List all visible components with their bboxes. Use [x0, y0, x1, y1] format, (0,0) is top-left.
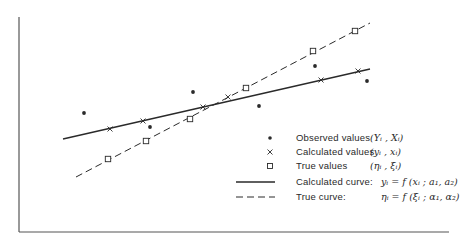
true-point [310, 48, 315, 53]
chart-canvas [0, 0, 466, 244]
observed-point [257, 104, 261, 108]
observed-point [148, 125, 152, 129]
true-point [243, 85, 248, 90]
observed-point [365, 79, 369, 83]
plot-area [63, 23, 370, 177]
true-point [105, 156, 110, 161]
legend-glyphs [236, 136, 275, 197]
true-point [352, 28, 357, 33]
legend-calculated-marker [268, 150, 273, 155]
calculated-point [226, 95, 231, 100]
observed-point [313, 64, 317, 68]
observed-point [82, 111, 86, 115]
observed-point [191, 90, 195, 94]
true-curve-line [76, 23, 370, 177]
legend-true-marker [268, 164, 273, 169]
true-point [187, 116, 192, 121]
true-point [143, 138, 148, 143]
legend-observed-marker [268, 136, 272, 140]
